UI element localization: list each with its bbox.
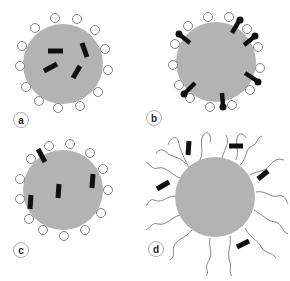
panel-c: c bbox=[14, 140, 113, 258]
particle-core bbox=[23, 24, 103, 104]
panel-a-label: a bbox=[18, 115, 24, 126]
panel-c-label: c bbox=[18, 245, 24, 256]
particle-core bbox=[175, 157, 255, 237]
panel-d-label: d bbox=[153, 244, 159, 255]
figure-canvas: a b bbox=[0, 0, 290, 281]
particle-core bbox=[23, 150, 103, 230]
panel-b: b bbox=[147, 13, 265, 126]
panel-d: d bbox=[146, 133, 288, 276]
panel-b-label: b bbox=[151, 113, 157, 124]
panel-a: a bbox=[14, 14, 113, 128]
